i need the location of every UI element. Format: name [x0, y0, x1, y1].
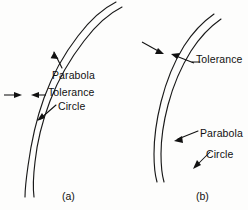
panel-b-circle-arrowhead: [193, 160, 201, 169]
panel-b-caption: (b): [196, 190, 209, 202]
figure-drawing: [0, 0, 248, 210]
panel-a-tolerance-right-arrowhead: [31, 92, 39, 98]
panel-a-label-circle: Circle: [58, 101, 85, 112]
panel-b-tolerance-left-arrowhead: [155, 48, 164, 54]
panel-a-tolerance-left-arrowhead: [14, 92, 22, 98]
figure-container: Parabola Tolerance Circle (a) Tolerance …: [0, 0, 248, 210]
panel-b-label-circle: Circle: [206, 149, 233, 160]
panel-b-parabola-arrowhead: [174, 136, 183, 143]
panel-b-label-parabola: Parabola: [200, 128, 243, 139]
panel-a-parabola-arrowhead: [51, 52, 59, 59]
panel-a-caption: (a): [62, 190, 75, 202]
panel-a-label-parabola: Parabola: [52, 70, 95, 81]
panel-b-label-tolerance: Tolerance: [196, 54, 242, 65]
panel-a-label-tolerance: Tolerance: [48, 87, 94, 98]
